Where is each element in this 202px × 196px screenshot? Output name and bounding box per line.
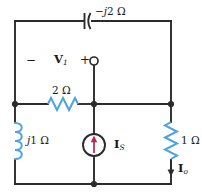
inductor-label: j1 Ω [27, 135, 49, 146]
resistor-load-symbol [165, 122, 177, 159]
resistor-series-symbol [48, 98, 78, 110]
polarity-plus-sign: + [80, 54, 90, 66]
capacitor-plate-curved [88, 13, 90, 29]
inductor-label-unit: Ω [40, 134, 49, 146]
capacitor-label-unit: Ω [117, 5, 126, 17]
capacitor-label: −j2 Ω [95, 6, 126, 17]
resistor-load-unit: Ω [191, 134, 200, 146]
resistor-load-value: 1 [181, 134, 188, 146]
resistor-series-value: 2 [52, 84, 59, 96]
junction-dot-center-middle [91, 101, 97, 107]
output-current-arrow [168, 160, 175, 177]
resistor-load-zigzag [165, 122, 177, 159]
inductor-coil [15, 123, 22, 159]
capacitor-label-sign: − [95, 5, 104, 17]
resistor-series-label: 2 Ω [52, 85, 71, 96]
junction-dot-left-middle [12, 101, 18, 107]
voltage-v1-symbol: V [54, 52, 63, 66]
voltage-v1-subscript: 1 [63, 58, 68, 67]
output-current-label: Io [178, 163, 188, 176]
inductor-symbol [15, 123, 22, 159]
polarity-minus-sign: − [26, 54, 36, 66]
resistor-series-zigzag [48, 98, 78, 110]
inductor-label-value: 1 [30, 134, 37, 146]
open-terminal-icon [90, 57, 98, 65]
current-source-symbol [83, 134, 105, 156]
current-source-subscript: S [119, 143, 124, 152]
io-arrow-head [168, 170, 175, 177]
circuit-diagram: −j2 Ω − V1 + 2 Ω j1 Ω IS 1 Ω Io [0, 0, 202, 196]
resistor-load-label: 1 Ω [181, 135, 200, 146]
junction-dot-bottom-center [91, 181, 97, 187]
output-current-subscript: o [183, 167, 188, 176]
capacitor-label-value: 2 [107, 5, 114, 17]
capacitor-symbol [85, 13, 91, 29]
current-source-label: IS [114, 139, 125, 152]
junction-dot-right-middle [168, 101, 174, 107]
voltage-v1-label: V1 [54, 54, 68, 67]
resistor-series-unit: Ω [62, 84, 71, 96]
circuit-schematic-canvas [0, 0, 202, 196]
